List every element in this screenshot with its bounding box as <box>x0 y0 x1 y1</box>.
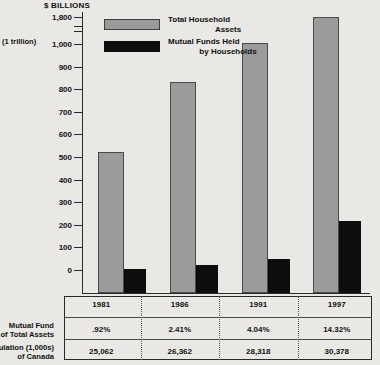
y-axis-tick-label: 0 <box>24 266 72 275</box>
table-year-1981: 1981 <box>62 300 141 309</box>
table-year-1986: 1986 <box>141 300 220 309</box>
chart-figure: $ BILLIONS (1 trillion) 1,8001,000900800… <box>0 0 380 365</box>
table-row-label-line2: % of Total Assets <box>0 330 54 339</box>
table-year-1997: 1997 <box>298 300 377 309</box>
legend-swatch-mutual-funds <box>104 41 160 52</box>
y-axis-tick-mark <box>74 270 82 271</box>
bar-mutual-funds-1997 <box>339 221 361 293</box>
y-axis-tick-label: 500 <box>24 153 72 162</box>
y-axis-tick-mark <box>74 134 82 135</box>
y-axis-tick-mark <box>74 247 82 248</box>
table-cell: 28,318 <box>219 347 298 356</box>
y-axis-tick-label: 700 <box>24 107 72 116</box>
bar-group-1981 <box>83 12 155 293</box>
y-axis-tick-label: 100 <box>24 243 72 252</box>
y-axis-tick-mark <box>74 17 82 18</box>
table-row-label-line2: of Canada <box>0 352 54 361</box>
table-cell: 25,062 <box>62 347 141 356</box>
bar-mutual-funds-1981 <box>124 269 146 293</box>
table-row-label-line1: Population (1,000s) <box>0 343 54 352</box>
bar-total-household-assets-1986 <box>170 82 196 293</box>
table-cell: .92% <box>62 325 141 334</box>
bar-total-household-assets-1981 <box>98 152 124 293</box>
y-axis-break-mark <box>74 26 83 27</box>
y-axis-tick-label: 1,800 <box>24 13 72 22</box>
table-cell: 26,362 <box>141 347 220 356</box>
table-cell: 2.41% <box>141 325 220 334</box>
bar-group-1997 <box>298 12 370 293</box>
legend-label-total-assets-line1: Total Household <box>168 15 288 25</box>
y-axis-tick-mark <box>74 67 82 68</box>
bar-total-household-assets-1991 <box>242 43 268 293</box>
y-axis-tick-mark <box>74 157 82 158</box>
y-axis-tick-mark <box>74 202 82 203</box>
table-cell: 30,378 <box>298 347 377 356</box>
table-row-separator <box>64 317 372 318</box>
y-axis-tick-mark <box>74 89 82 90</box>
table-row-label: Mutual Fund% of Total Assets <box>0 321 54 340</box>
bar-mutual-funds-1991 <box>268 259 290 293</box>
table-row-label-line1: Mutual Fund <box>0 321 54 330</box>
y-axis-tick-label: 300 <box>24 198 72 207</box>
data-table: 1981198619911997Mutual Fund% of Total As… <box>2 296 376 362</box>
y-axis-break-mark <box>74 31 83 32</box>
bar-total-household-assets-1997 <box>313 17 339 293</box>
legend-label-mutual-funds-line2: by Households <box>168 47 288 57</box>
table-year-1991: 1991 <box>219 300 298 309</box>
bar-mutual-funds-1986 <box>196 265 218 293</box>
table-row-label: Population (1,000s)of Canada <box>0 343 54 362</box>
y-axis-tick-label: 800 <box>24 85 72 94</box>
table-cell: 14.32% <box>298 325 377 334</box>
y-axis-tick-label: 200 <box>24 220 72 229</box>
y-axis-tick-mark <box>74 225 82 226</box>
y-axis-tick-mark <box>74 180 82 181</box>
y-axis-tick-mark <box>74 112 82 113</box>
table-row-separator <box>64 339 372 340</box>
y-axis-tick-mark <box>74 44 82 45</box>
y-axis-tick-label: 1,000 <box>24 40 72 49</box>
legend-swatch-total-assets <box>104 19 160 30</box>
legend-label-total-assets-line2: Assets <box>168 25 288 35</box>
y-axis-tick-label: 900 <box>24 62 72 71</box>
y-axis-title: $ BILLIONS <box>44 1 90 10</box>
table-cell: 4.04% <box>219 325 298 334</box>
y-axis-tick-label: 600 <box>24 130 72 139</box>
y-axis-tick-label: 400 <box>24 175 72 184</box>
legend-label-mutual-funds-line1: Mutual Funds Held <box>168 37 288 47</box>
